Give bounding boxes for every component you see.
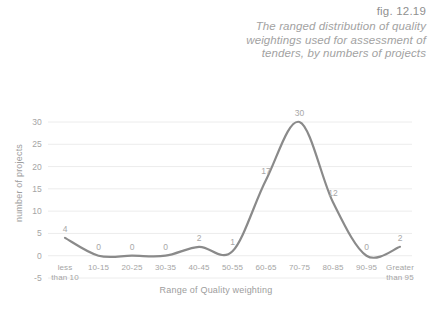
- x-tick-label: 30-35: [155, 263, 176, 272]
- figure-description: The ranged distribution of quality weigh…: [246, 20, 426, 61]
- x-axis-title: Range of Quality weighting: [0, 285, 432, 295]
- data-label: 12: [328, 188, 338, 198]
- data-label: 4: [63, 224, 68, 234]
- x-tick-label: 60-65: [256, 263, 277, 272]
- data-label: 0: [96, 242, 101, 252]
- y-tick-label: 5: [37, 228, 42, 238]
- x-tick-label: 70-75: [289, 263, 310, 272]
- y-tick-label: 0: [37, 251, 42, 261]
- x-tick-label: 40-45: [189, 263, 210, 272]
- y-tick-label: 30: [32, 117, 42, 127]
- x-tick-label: Greaterthan 95: [386, 263, 414, 282]
- data-labels: 40002117301202: [63, 108, 403, 252]
- y-axis-tick-labels: -5051015202530: [32, 117, 42, 283]
- figure-caption: fig. 12.19 The ranged distribution of qu…: [246, 4, 426, 61]
- data-label: 0: [130, 242, 135, 252]
- x-tick-label: 80-85: [323, 263, 344, 272]
- data-label: 2: [398, 233, 403, 243]
- x-tick-label: 50-55: [222, 263, 243, 272]
- y-tick-label: -5: [34, 273, 42, 283]
- x-tick-label: 20-25: [122, 263, 143, 272]
- figure-page: fig. 12.19 The ranged distribution of qu…: [0, 0, 432, 311]
- data-label: 2: [197, 233, 202, 243]
- gridlines: [48, 122, 412, 278]
- data-label: 0: [163, 242, 168, 252]
- x-tick-label: 10-15: [88, 263, 109, 272]
- x-tick-label: 90-95: [356, 263, 377, 272]
- line-chart: -5051015202530 lessthan 1010-1520-2530-3…: [0, 104, 432, 311]
- x-axis-category-labels: lessthan 1010-1520-2530-3540-4550-5560-6…: [51, 263, 414, 282]
- data-label: 17: [261, 166, 271, 176]
- chart-canvas: -5051015202530 lessthan 1010-1520-2530-3…: [0, 104, 432, 311]
- data-label: 0: [364, 242, 369, 252]
- x-tick-label: lessthan 10: [51, 263, 79, 282]
- figure-number: fig. 12.19: [246, 4, 426, 18]
- data-label: 1: [230, 237, 235, 247]
- y-tick-label: 20: [32, 162, 42, 172]
- y-axis-title: number of projects: [14, 128, 24, 238]
- y-tick-label: 25: [32, 139, 42, 149]
- y-tick-label: 15: [32, 184, 42, 194]
- y-tick-label: 10: [32, 206, 42, 216]
- data-label: 30: [295, 108, 305, 118]
